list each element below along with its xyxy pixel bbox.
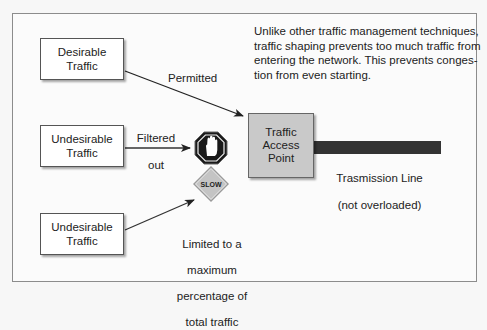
edge-label-line: total traffic [176,316,248,329]
source-box-desirable-traffic: Desirable Traffic [40,38,124,80]
transmission-line-label-line: Trasmission Line [322,172,437,186]
edge-label-line: Limited to a [176,238,248,251]
access-point-label-line: Traffic [262,126,299,139]
source-box-undesirable-traffic-filtered: Undesirable Traffic [40,125,124,167]
edge-label-line: maximum [176,264,248,277]
transmission-line-label: Trasmission Line (not overloaded) [322,158,437,226]
source-box-undesirable-traffic-limited: Undesirable Traffic [40,213,124,255]
edge-label-line: percentage of [176,290,248,303]
traffic-access-point: Traffic Access Point [248,113,314,178]
box-label-line: Desirable [58,45,107,59]
edge-label-permitted: Permitted [168,72,217,86]
access-point-label-line: Access [262,139,299,152]
transmission-line [313,141,441,154]
edge-label-line: out [136,159,176,173]
edge-label-limited: Limited to a maximum percentage of total… [176,225,248,330]
box-label-line: Undesirable [51,132,112,146]
box-label-line: Traffic [58,59,107,73]
stop-hand-icon [195,132,227,164]
box-label-line: Traffic [51,234,112,248]
access-point-label-line: Point [262,152,299,165]
slow-sign-icon: SLOW [193,166,229,202]
edge-label-line: Filtered [136,132,176,146]
transmission-line-label-line: (not overloaded) [322,199,437,213]
box-label-line: Traffic [51,146,112,160]
slow-sign-text: SLOW [201,181,222,188]
edge-label-filtered-out: Filtered out [136,118,176,186]
box-label-line: Undesirable [51,220,112,234]
